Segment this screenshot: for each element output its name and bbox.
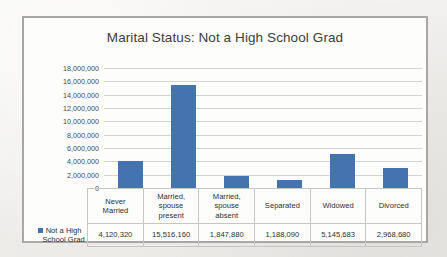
bar[interactable]: [383, 168, 407, 188]
bar-slot: [104, 68, 157, 188]
bar[interactable]: [330, 154, 354, 188]
chart-title: Marital Status: Not a High School Grad: [24, 30, 426, 45]
category-label-line: present: [144, 211, 199, 220]
plot-region: 18,000,00016,000,00014,000,00012,000,000…: [32, 68, 422, 188]
category-cell: Divorced: [366, 189, 422, 224]
category-cell: NeverMarried: [88, 189, 144, 224]
bar-slot: [210, 68, 263, 188]
bar[interactable]: [224, 176, 248, 188]
legend-swatch-icon: [38, 228, 43, 233]
bar-slot: [369, 68, 422, 188]
category-label-line: spouse: [199, 201, 254, 210]
category-label-line: absent: [199, 211, 254, 220]
y-axis-tick-label: 16,000,000: [63, 77, 99, 86]
y-axis-tick-label: 12,000,000: [63, 104, 99, 113]
value-cell: 5,145,683: [310, 224, 366, 247]
category-cell: Widowed: [310, 189, 366, 224]
category-label-line: Married,: [144, 192, 199, 201]
table-row-categories: NeverMarriedMarried,spousepresentMarried…: [32, 189, 422, 224]
category-label-line: Separated: [255, 201, 310, 210]
bar-slot: [316, 68, 369, 188]
value-cell: 1,847,880: [199, 224, 255, 247]
y-axis-tick-label: 2,000,000: [67, 170, 99, 179]
bar[interactable]: [171, 85, 195, 188]
category-cell: Married,spousepresent: [143, 189, 199, 224]
y-axis-tick-label: 14,000,000: [63, 90, 99, 99]
category-label-line: Married,: [199, 192, 254, 201]
y-axis-tick-labels: 18,000,00016,000,00014,000,00012,000,000…: [32, 68, 102, 188]
y-axis-tick-label: 8,000,000: [67, 130, 99, 139]
y-axis-tick-label: 4,000,000: [67, 157, 99, 166]
value-cell: 4,120,320: [88, 224, 144, 247]
y-axis-tick-label: 10,000,000: [63, 117, 99, 126]
category-label-line: Never: [88, 197, 143, 206]
category-label-line: Divorced: [366, 201, 421, 210]
legend-spacer-cell: [32, 189, 88, 224]
bar[interactable]: [277, 180, 301, 188]
category-cell: Separated: [255, 189, 311, 224]
bar-slot: [263, 68, 316, 188]
legend-entry: Not a High School Grad: [32, 224, 88, 247]
plot-area: [104, 68, 422, 188]
value-cell: 15,516,160: [143, 224, 199, 247]
bar-series: [104, 68, 422, 188]
category-label-line: Widowed: [311, 201, 366, 210]
category-cell: Married,spouseabsent: [199, 189, 255, 224]
category-label-line: Married: [88, 206, 143, 215]
chart-data-table: NeverMarriedMarried,spousepresentMarried…: [32, 188, 422, 247]
category-label-line: spouse: [144, 201, 199, 210]
legend-label-line1: Not a High: [46, 226, 82, 235]
bar[interactable]: [118, 161, 142, 188]
legend-label-line2: School Grad: [32, 235, 87, 244]
y-axis-tick-label: 6,000,000: [67, 144, 99, 153]
bar-slot: [157, 68, 210, 188]
table-row-values: Not a High School Grad 4,120,32015,516,1…: [32, 224, 422, 247]
value-cell: 1,188,090: [255, 224, 311, 247]
y-axis-tick-label: 18,000,000: [63, 64, 99, 73]
chart-frame: Marital Status: Not a High School Grad 1…: [22, 16, 428, 243]
value-cell: 2,968,680: [366, 224, 422, 247]
